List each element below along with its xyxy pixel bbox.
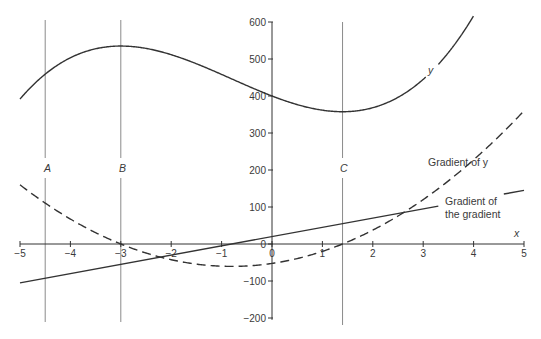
curve-y — [20, 46, 426, 112]
x-tick-label: −1 — [216, 248, 228, 259]
x-axis-label: x — [513, 227, 520, 239]
annotations: A B C y Gradient of y Gradient of the gr… — [43, 64, 520, 239]
x-tick-label: 2 — [370, 248, 376, 259]
y-tick-label: −200 — [243, 313, 266, 324]
curve-label-y: y — [427, 64, 434, 76]
y-tick-label: 300 — [249, 128, 266, 139]
x-tick-label: 1 — [320, 248, 326, 259]
x-tick-label: −5 — [14, 248, 26, 259]
line-label-b: B — [119, 162, 126, 174]
line-label-a: A — [43, 162, 51, 174]
x-tick-label: −2 — [165, 248, 177, 259]
chart-container: −5−4−3−2−1012345−200−1001002003004005006… — [0, 0, 541, 339]
curve-label-gradient-of-gradient-1: Gradient of — [445, 195, 497, 207]
x-tick-label: 5 — [521, 248, 527, 259]
y-tick-label: 500 — [249, 54, 266, 65]
plot-area: −5−4−3−2−1012345−200−1001002003004005006… — [0, 0, 541, 339]
y-tick-label: −100 — [243, 276, 266, 287]
x-tick-label: 3 — [420, 248, 426, 259]
y-tick-label: 100 — [249, 202, 266, 213]
curve-label-gradient-of-y: Gradient of y — [428, 156, 489, 168]
y-tick-label-zero: 0 — [260, 239, 266, 250]
line-gradient-of-gradient-end — [504, 190, 524, 194]
curve-y-upper — [438, 16, 473, 64]
x-tick-label: 4 — [471, 248, 477, 259]
x-tick-label: −4 — [65, 248, 77, 259]
axes: −5−4−3−2−1012345−200−1001002003004005006… — [14, 17, 527, 324]
y-tick-label: 200 — [249, 165, 266, 176]
curve-label-gradient-of-gradient-2: the gradient — [445, 208, 501, 220]
y-tick-label: 600 — [249, 17, 266, 28]
x-tick-label: −3 — [115, 248, 127, 259]
line-label-c: C — [340, 162, 348, 174]
vertical-guide-lines — [45, 20, 342, 325]
